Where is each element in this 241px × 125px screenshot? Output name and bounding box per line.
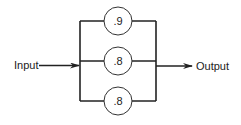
component-top: .9 xyxy=(104,7,132,35)
output-label: Output xyxy=(196,60,229,72)
component-middle: .8 xyxy=(104,47,132,75)
component-middle-value: .8 xyxy=(113,55,122,67)
input-label: Input xyxy=(14,59,38,71)
component-top-value: .9 xyxy=(113,15,122,27)
component-bottom: .8 xyxy=(104,87,132,115)
component-bottom-value: .8 xyxy=(113,95,122,107)
reliability-diagram: Input Output .9 .8 .8 xyxy=(0,0,241,125)
